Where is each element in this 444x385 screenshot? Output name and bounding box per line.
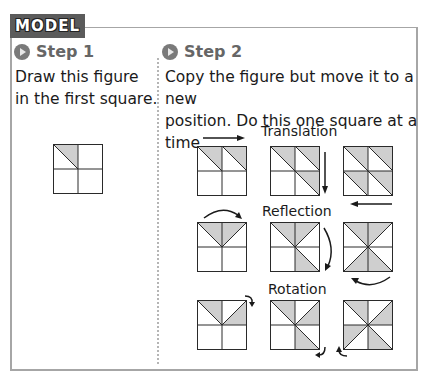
translation-label: Translation [261, 123, 337, 139]
curved-arrow-down-icon [322, 226, 336, 272]
rotation-figure-1 [197, 300, 248, 351]
arrow-down-icon [321, 152, 329, 194]
step1-line-2: in the first square. [15, 88, 157, 110]
step2-line-1: Copy the figure but move it to a new [165, 66, 444, 110]
step1-figure [53, 144, 103, 194]
reflection-figure-1 [197, 222, 248, 273]
step1-instructions: Draw this figure in the first square. [15, 66, 157, 110]
translation-figure-3 [343, 146, 394, 197]
step1-title: Step 1 [36, 42, 94, 61]
step2-header: Step 2 [162, 42, 242, 61]
rotate-clockwise-icon [244, 294, 256, 308]
curved-arrow-right-icon [202, 206, 244, 220]
arrow-right-icon [203, 134, 245, 142]
rotation-figure-2 [270, 300, 321, 351]
translation-figure-2 [270, 146, 321, 197]
step1-header: Step 1 [14, 42, 94, 61]
play-circle-icon [162, 44, 178, 60]
reflection-label: Reflection [262, 203, 332, 219]
rotate-clockwise-icon [335, 346, 349, 360]
arrow-left-icon [350, 200, 392, 208]
rotate-clockwise-icon [314, 346, 328, 358]
reflection-figure-2 [270, 222, 321, 273]
rotation-label: Rotation [268, 281, 327, 297]
step2-title: Step 2 [184, 42, 242, 61]
model-tab: MODEL [10, 14, 85, 38]
step1-line-1: Draw this figure [15, 66, 157, 88]
curved-arrow-left-icon [350, 276, 392, 288]
rotation-figure-3 [343, 300, 394, 351]
reflection-figure-3 [343, 222, 394, 273]
translation-figure-1 [197, 146, 248, 197]
play-circle-icon [14, 44, 30, 60]
